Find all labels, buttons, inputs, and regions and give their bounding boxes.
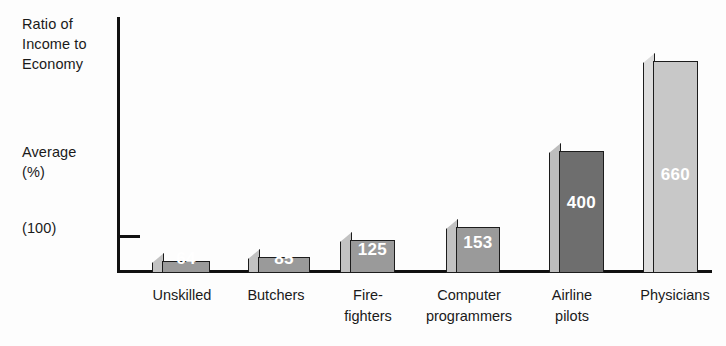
category-label-airline-pilots: Airline pilots [532, 285, 612, 327]
bar-value-label: 400 [559, 193, 604, 213]
bar-physicians: 660 [643, 53, 700, 273]
category-label-unskilled: Unskilled [137, 285, 227, 306]
chart-y-axis-title: Ratio of Income to Economy [22, 14, 114, 74]
bar-value-label: 125 [350, 240, 395, 260]
bar-unskilled: 64 [152, 253, 212, 273]
category-label-butchers: Butchers [233, 285, 319, 306]
bar-airline-pilots: 400 [549, 143, 606, 273]
category-label-fire--fighters: Fire- fighters [328, 285, 408, 327]
bar-fire--fighters: 125 [340, 232, 397, 273]
category-label-computer-programmers: Computer programmers [414, 285, 524, 327]
y-axis-tick-100 [120, 235, 140, 238]
chart-y-axis-baseline-label: (100) [22, 218, 114, 238]
bar-value-label: 660 [653, 165, 698, 185]
chart-y-axis-average-label: Average (%) [22, 142, 114, 182]
bar-value-label: 85 [258, 249, 310, 269]
bar-butchers: 85 [248, 249, 312, 273]
category-label-physicians: Physicians [626, 285, 724, 306]
bar-value-label: 153 [456, 233, 500, 253]
bar-chart: Ratio of Income to Economy Average (%) (… [0, 0, 726, 346]
bar-value-label: 64 [162, 249, 210, 269]
bar-computer-programmers: 153 [446, 219, 502, 273]
